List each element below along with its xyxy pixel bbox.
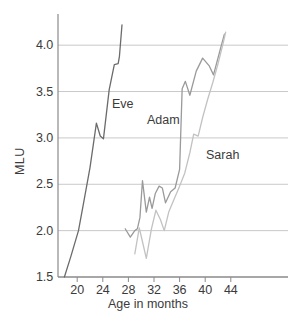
x-tick-label-44: 44	[218, 283, 244, 297]
series-label-sarah: Sarah	[206, 148, 239, 162]
series-label-adam: Adam	[147, 113, 180, 127]
y-tick-label-2.0: 2.0	[19, 224, 53, 238]
x-tick-label-40: 40	[192, 283, 218, 297]
y-tick-label-1.5: 1.5	[19, 270, 53, 284]
x-tick-label-32: 32	[141, 283, 167, 297]
y-tick-label-2.5: 2.5	[19, 177, 53, 191]
x-tick-mark-group	[77, 277, 231, 282]
y-tick-label-3.5: 3.5	[19, 85, 53, 99]
series-label-eve: Eve	[112, 97, 134, 111]
y-tick-label-4.0: 4.0	[19, 38, 53, 52]
series-line-eve	[64, 25, 122, 277]
y-axis-title: MLU	[13, 147, 27, 175]
y-tick-label-3.0: 3.0	[19, 131, 53, 145]
series-path-group	[64, 25, 225, 277]
gridline-group	[58, 45, 288, 277]
x-tick-label-28: 28	[115, 283, 141, 297]
series-line-adam	[125, 34, 224, 237]
x-tick-label-20: 20	[64, 283, 90, 297]
x-axis-title: Age in months	[0, 297, 296, 311]
x-tick-label-24: 24	[90, 283, 116, 297]
x-tick-label-36: 36	[167, 283, 193, 297]
axis-line-group	[58, 14, 288, 277]
mlu-line-chart: 4.03.53.02.52.01.5 20242832364044 MLU Ag…	[0, 0, 296, 324]
